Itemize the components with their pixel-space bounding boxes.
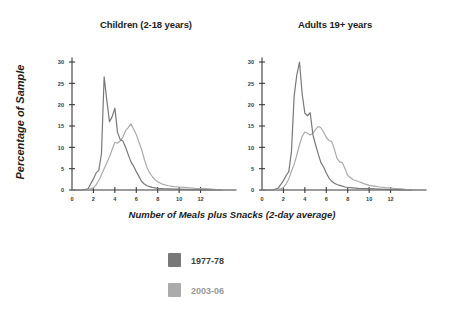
children-y-tick-label: 10 (58, 145, 64, 151)
legend-label-2003-06: 2003-06 (191, 286, 224, 296)
panel-title-children: Children (2-18 years) (100, 19, 192, 30)
adults-y-tick-label: 0 (251, 187, 254, 193)
adults-y-tick-label: 10 (248, 145, 254, 151)
x-axis-label: Number of Meals plus Snacks (2-day avera… (129, 209, 336, 220)
children-y-tick-label: 5 (61, 166, 64, 172)
children-y-tick-label: 20 (58, 102, 64, 108)
chart-figure: Percentage of Sample Children (2-18 year… (0, 0, 461, 320)
children-x-tick-label: 10 (176, 196, 182, 202)
children-y-tick-label: 25 (58, 81, 64, 87)
adults-y-tick-label: 5 (251, 166, 254, 172)
children-y-tick-label: 0 (61, 187, 64, 193)
adults-x-tick-label: 12 (387, 196, 393, 202)
legend-label-1977-78: 1977-78 (191, 256, 224, 266)
adults-x-tick-label: 8 (346, 196, 349, 202)
adults-y-tick-label: 20 (248, 102, 254, 108)
adults-y-tick-label: 15 (248, 123, 254, 129)
adults-x-tick-label: 0 (260, 196, 263, 202)
y-axis-label: Percentage of Sample (14, 65, 26, 180)
children-x-tick-label: 6 (135, 196, 138, 202)
adults-x-tick-label: 6 (325, 196, 328, 202)
legend-swatch-2003-06 (168, 283, 181, 297)
children-y-tick-label: 30 (58, 59, 64, 65)
adults-x-tick-label: 10 (366, 196, 372, 202)
children-x-tick-label: 0 (70, 196, 73, 202)
legend-swatch-1977-78 (168, 253, 181, 267)
adults-y-tick-label: 30 (248, 59, 254, 65)
children-y-tick-label: 15 (58, 123, 64, 129)
adults-y-tick-label: 25 (248, 81, 254, 87)
panel-title-adults: Adults 19+ years (298, 19, 372, 30)
figure-background (0, 0, 461, 320)
adults-x-tick-label: 2 (282, 196, 285, 202)
children-x-tick-label: 8 (156, 196, 159, 202)
children-x-tick-label: 12 (197, 196, 203, 202)
children-x-tick-label: 2 (92, 196, 95, 202)
